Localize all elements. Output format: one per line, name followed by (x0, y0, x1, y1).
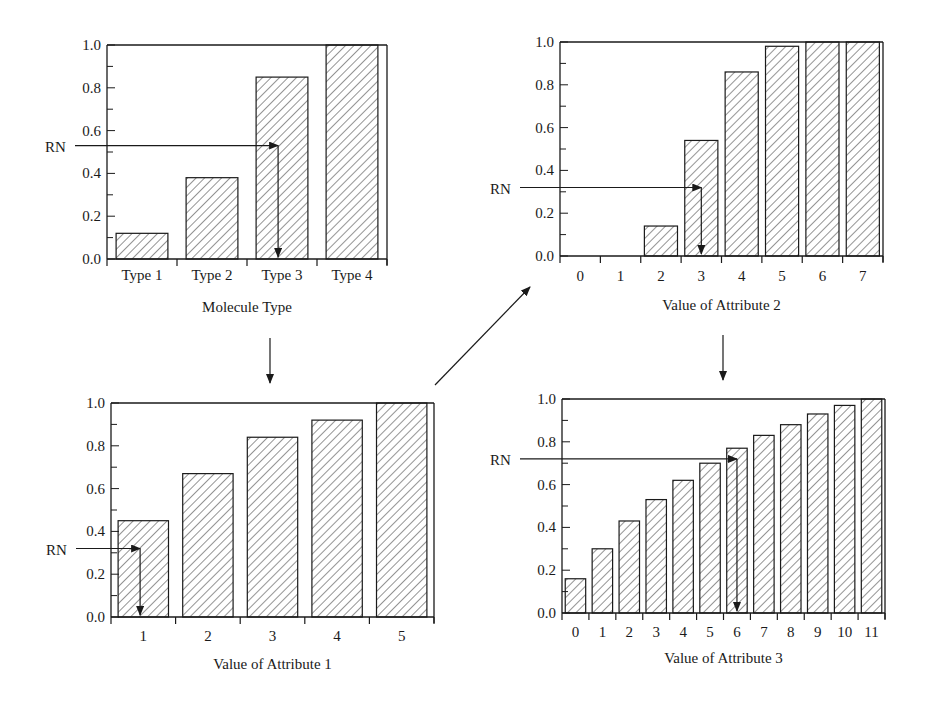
y-tick-label: 0.4 (86, 523, 105, 539)
y-tick-label: 0.0 (537, 605, 556, 621)
chart-panel-molecule-type: 0.00.20.40.60.81.0Type 1Type 2Type 3Type… (45, 37, 387, 315)
bar-7 (846, 42, 879, 256)
y-tick-label: 0.8 (82, 80, 101, 96)
rn-label: RN (45, 139, 66, 155)
x-tick-label: 3 (269, 628, 277, 644)
x-tick-label: 11 (864, 624, 878, 640)
bar-5 (766, 46, 799, 256)
x-tick-label: 9 (814, 624, 822, 640)
x-tick-label: 2 (657, 268, 665, 284)
bar-4 (725, 72, 758, 256)
rn-label: RN (490, 181, 511, 197)
bar-7 (754, 435, 774, 613)
y-tick-label: 1.0 (535, 34, 554, 50)
rn-label: RN (490, 452, 511, 468)
bar-0 (565, 579, 585, 613)
chart-panel-attribute-3: 0.00.20.40.60.81.001234567891011Value of… (490, 391, 885, 666)
x-axis-label: Value of Attribute 2 (662, 297, 781, 313)
bar-type-4 (326, 45, 378, 259)
y-tick-label: 0.0 (535, 248, 554, 264)
y-tick-label: 0.4 (82, 165, 101, 181)
y-tick-label: 0.6 (82, 123, 101, 139)
bar-11 (861, 399, 881, 613)
bar-4 (673, 480, 693, 613)
x-axis-label: Molecule Type (202, 299, 292, 315)
x-tick-label: 2 (204, 628, 212, 644)
bar-1 (118, 521, 168, 617)
y-tick-label: 0.2 (535, 205, 554, 221)
x-axis-label: Value of Attribute 1 (213, 656, 332, 672)
bar-2 (183, 474, 233, 617)
bar-9 (807, 414, 827, 613)
x-tick-label: 5 (398, 628, 406, 644)
x-tick-label: 7 (859, 268, 867, 284)
y-tick-label: 0.8 (535, 77, 554, 93)
bar-1 (592, 549, 612, 613)
bar-5 (700, 463, 720, 613)
bar-10 (834, 405, 854, 613)
x-tick-label: 0 (572, 624, 580, 640)
y-tick-label: 0.4 (535, 162, 554, 178)
y-tick-label: 0.6 (86, 481, 105, 497)
x-tick-label: 5 (706, 624, 714, 640)
x-tick-label: 4 (679, 624, 687, 640)
y-tick-label: 0.2 (82, 208, 101, 224)
x-tick-label: 4 (333, 628, 341, 644)
bar-2 (619, 521, 639, 613)
bar-5 (377, 403, 427, 617)
x-tick-label: 10 (837, 624, 852, 640)
bar-8 (781, 425, 801, 613)
bar-3 (247, 437, 297, 617)
x-tick-label: 3 (652, 624, 660, 640)
bar-type-1 (116, 233, 168, 259)
bar-type-3 (256, 77, 308, 259)
x-tick-label: 7 (760, 624, 768, 640)
y-tick-label: 1.0 (86, 395, 105, 411)
y-tick-label: 0.6 (537, 477, 556, 493)
y-tick-label: 0.2 (86, 566, 105, 582)
x-tick-label: 0 (576, 268, 584, 284)
x-tick-label: 8 (787, 624, 795, 640)
x-tick-label: Type 3 (261, 267, 302, 283)
x-tick-label: Type 2 (191, 267, 232, 283)
y-tick-label: 0.8 (86, 438, 105, 454)
x-tick-label: 6 (819, 268, 827, 284)
x-tick-label: 1 (599, 624, 607, 640)
x-tick-label: 3 (698, 268, 706, 284)
chart-panel-attribute-2: 0.00.20.40.60.81.001234567Value of Attri… (490, 34, 883, 313)
x-axis-label: Value of Attribute 3 (664, 650, 783, 666)
y-tick-label: 0.6 (535, 120, 554, 136)
bar-2 (644, 226, 677, 256)
flow-connector-arrows (270, 287, 723, 385)
y-tick-label: 0.8 (537, 434, 556, 450)
y-tick-label: 0.2 (537, 562, 556, 578)
bar-3 (646, 500, 666, 613)
y-tick-label: 0.0 (86, 609, 105, 625)
x-tick-label: 1 (140, 628, 148, 644)
y-tick-label: 0.4 (537, 519, 556, 535)
x-tick-label: 1 (617, 268, 625, 284)
bar-6 (806, 42, 839, 256)
x-tick-label: Type 4 (331, 267, 373, 283)
x-tick-label: 4 (738, 268, 746, 284)
chart-panel-attribute-1: 0.00.20.40.60.81.012345Value of Attribut… (46, 395, 434, 672)
cumulative-distribution-figure: 0.00.20.40.60.81.0Type 1Type 2Type 3Type… (0, 0, 925, 710)
bar-type-2 (186, 178, 238, 259)
y-tick-label: 1.0 (537, 391, 556, 407)
x-tick-label: Type 1 (121, 267, 162, 283)
bar-4 (312, 420, 362, 617)
y-tick-label: 0.0 (82, 251, 101, 267)
x-tick-label: 5 (778, 268, 786, 284)
x-tick-label: 6 (733, 624, 741, 640)
x-tick-label: 2 (626, 624, 634, 640)
y-tick-label: 1.0 (82, 37, 101, 53)
rn-label: RN (46, 542, 67, 558)
flow-arrow-icon (435, 287, 530, 385)
